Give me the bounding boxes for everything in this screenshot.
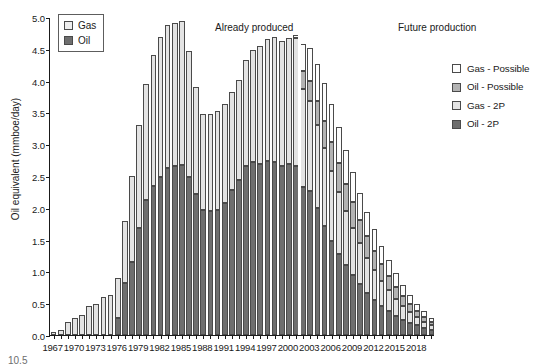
bar-segment-oilposs — [364, 236, 370, 258]
bar-segment-oilposs — [407, 304, 413, 312]
bar-segment-oilposs — [322, 121, 328, 148]
bar-segment-oil2p — [307, 191, 313, 335]
bar-segment-oilposs — [379, 264, 385, 281]
x-tick-mark — [360, 335, 361, 339]
annotation-future-production: Future production — [398, 22, 476, 33]
bar-segment-oil2p — [407, 323, 413, 335]
y-tick-mark — [46, 336, 50, 337]
bar-segment-oil2p — [215, 210, 221, 335]
x-tick-mark — [118, 335, 119, 339]
figure-caption: 10.5 — [8, 355, 27, 364]
bar-1996 — [257, 46, 263, 335]
bar-2000 — [286, 38, 292, 335]
x-tick-mark — [403, 335, 404, 339]
bar-segment-gas2p — [336, 192, 342, 254]
bar-segment-gas2p — [229, 92, 235, 190]
bar-segment-gasposs — [350, 172, 356, 203]
y-tick-mark — [46, 82, 50, 83]
bar-segment-gas2p — [372, 270, 378, 300]
bar-segment-gas2p — [165, 25, 171, 169]
x-tick-mark — [374, 335, 375, 339]
x-tick-label: 2018 — [406, 342, 426, 353]
bar-segment-gas2p — [72, 318, 78, 335]
bar-1986 — [186, 51, 192, 335]
bar-1972 — [86, 306, 92, 335]
bar-segment-gas2p — [307, 101, 313, 191]
bar-segment-oil2p — [279, 166, 285, 335]
bar-segment-gas2p — [65, 322, 71, 335]
bar-segment-oilposs — [414, 311, 420, 317]
y-tick-mark — [46, 177, 50, 178]
chart-figure: Oil equivalent (mmboe/day) 0.00.51.01.52… — [0, 0, 547, 364]
legend-reserve-item: Gas - Possible — [452, 62, 529, 75]
x-tick-mark — [346, 335, 347, 339]
legend-swatch-icon — [64, 36, 73, 45]
x-tick-mark — [54, 335, 55, 339]
bar-segment-oil2p — [250, 162, 256, 335]
bar-2016 — [400, 285, 406, 335]
bar-1985 — [179, 21, 185, 335]
bar-segment-oil2p — [322, 226, 328, 335]
x-tick-label: 1979 — [128, 342, 148, 353]
x-tick-mark — [125, 335, 126, 339]
bar-segment-gas2p — [129, 176, 135, 262]
x-tick-mark — [253, 335, 254, 339]
y-tick-mark — [46, 18, 50, 19]
bar-2011 — [364, 212, 370, 335]
bar-1968 — [58, 330, 64, 335]
bar-segment-gas2p — [393, 299, 399, 316]
x-tick-mark — [175, 335, 176, 339]
bar-1976 — [115, 278, 121, 335]
bar-segment-gas2p — [143, 84, 149, 200]
bar-2009 — [350, 172, 356, 335]
x-tick-label: 2006 — [320, 342, 340, 353]
bar-segment-oil2p — [257, 164, 263, 335]
x-tick-mark — [367, 335, 368, 339]
bar-segment-gasposs — [336, 127, 342, 163]
bar-1988 — [200, 114, 206, 335]
bar-segment-oil2p — [379, 306, 385, 335]
x-tick-mark — [260, 335, 261, 339]
bar-1979 — [136, 125, 142, 335]
bar-segment-gas2p — [236, 80, 242, 180]
bar-segment-oil2p — [400, 320, 406, 335]
bar-segment-oil2p — [421, 328, 427, 335]
bar-segment-gas2p — [200, 114, 206, 210]
bar-segment-gas2p — [108, 295, 114, 335]
bar-segment-oil2p — [329, 241, 335, 335]
x-tick-mark — [168, 335, 169, 339]
legend-swatch-icon — [452, 83, 461, 92]
bar-segment-gas2p — [51, 332, 57, 335]
x-tick-label: 2015 — [385, 342, 405, 353]
bar-segment-gasposs — [322, 83, 328, 122]
x-tick-label: 1973 — [85, 342, 105, 353]
bar-segment-gas2p — [364, 258, 370, 293]
bar-segment-oil2p — [393, 316, 399, 335]
x-tick-mark — [332, 335, 333, 339]
x-tick-mark — [289, 335, 290, 339]
bar-segment-oilposs — [393, 287, 399, 299]
x-tick-mark — [218, 335, 219, 339]
legend-gas-oil-label: Gas — [78, 21, 96, 31]
bar-segment-oilposs — [400, 296, 406, 306]
x-tick-mark — [417, 335, 418, 339]
bar-segment-gas2p — [350, 228, 356, 275]
bar-1970 — [72, 318, 78, 335]
bar-segment-oil2p — [272, 162, 278, 335]
bar-segment-gasposs — [400, 285, 406, 296]
bar-2019 — [421, 311, 427, 335]
bar-2004 — [315, 64, 321, 335]
x-tick-mark — [424, 335, 425, 339]
bar-segment-oil2p — [350, 275, 356, 335]
legend-reserve-item: Gas - 2P — [452, 99, 529, 112]
bar-1992 — [229, 92, 235, 335]
y-tick-mark — [46, 272, 50, 273]
bar-2015 — [393, 273, 399, 335]
bar-segment-gas2p — [265, 39, 271, 161]
bar-segment-oil2p — [336, 254, 342, 335]
x-tick-mark — [267, 335, 268, 339]
x-tick-mark — [139, 335, 140, 339]
x-tick-mark — [382, 335, 383, 339]
bar-segment-gasposs — [407, 295, 413, 304]
bar-segment-oilposs — [336, 163, 342, 192]
